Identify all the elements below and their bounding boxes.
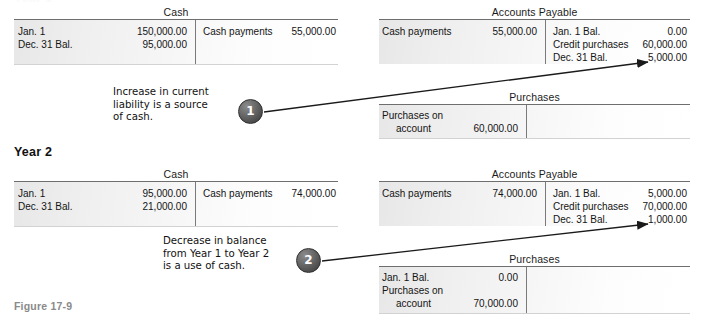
annotation-line: from Year 1 to Year 2 (163, 248, 295, 261)
annotation-1-badge: 1 (238, 99, 263, 124)
row-label: account (382, 122, 431, 135)
row-amount: 1,000.00 (648, 213, 687, 226)
annotation-line: is a use of cash. (163, 260, 295, 273)
table-row: Jan. 1 Bal. 0.00 (382, 271, 518, 284)
credit-side: Jan. 1 Bal. 5,000.00 Credit purchases 70… (546, 182, 690, 226)
account-bottom-rule (379, 138, 690, 139)
table-row: Purchases on (382, 284, 518, 297)
table-row: Cash payments 55,000.00 (203, 25, 336, 38)
debit-side: Jan. 1 Bal. 0.00 Purchases on account 70… (379, 267, 527, 313)
credit-side: Cash payments 74,000.00 (196, 182, 338, 226)
row-amount: 21,000.00 (143, 200, 188, 213)
row-label: Credit purchases (553, 200, 629, 213)
table-row: Jan. 1 Bal. 0.00 (553, 25, 687, 38)
row-amount: 5,000.00 (648, 187, 687, 200)
annotation-2-text: Decrease in balance from Year 1 to Year … (163, 235, 295, 273)
account-bottom-rule (14, 64, 338, 65)
credit-side (527, 105, 690, 138)
row-label: Purchases on (382, 284, 443, 297)
row-label: Cash payments (382, 187, 451, 200)
account-title: Cash (14, 6, 338, 19)
annotation-line: Increase in current (113, 86, 225, 99)
row-label: Dec. 31 Bal. (18, 38, 72, 51)
debit-side: Purchases on account 60,000.00 (379, 105, 527, 138)
row-amount: 0.00 (668, 25, 687, 38)
annotation-line: liability is a source (113, 99, 225, 112)
credit-side: Jan. 1 Bal. 0.00 Credit purchases 60,000… (546, 20, 690, 64)
row-label: Jan. 1 Bal. (382, 271, 429, 284)
t-account-year2-purchases: Purchases Jan. 1 Bal. 0.00 Purchases on … (379, 253, 690, 314)
table-row: Jan. 1 95,000.00 (18, 187, 187, 200)
row-label: Cash payments (203, 25, 272, 38)
row-amount: 55,000.00 (292, 25, 337, 38)
account-bottom-rule (14, 226, 338, 227)
row-label: Jan. 1 (18, 187, 45, 200)
row-amount: 70,000.00 (474, 297, 519, 310)
t-account-year1-accounts-payable: Accounts Payable Cash payments 55,000.00… (379, 6, 690, 64)
row-amount: 74,000.00 (493, 187, 538, 200)
row-label: Dec. 31 Bal. (553, 213, 607, 226)
table-row: Jan. 1 150,000.00 (18, 25, 187, 38)
row-label: Dec. 31 Bal. (553, 51, 607, 64)
annotation-2-badge: 2 (296, 248, 321, 273)
debit-side: Jan. 1 95,000.00 Dec. 31 Bal. 21,000.00 (14, 182, 196, 226)
table-row: Credit purchases 70,000.00 (553, 200, 687, 213)
row-amount: 60,000.00 (474, 122, 519, 135)
annotation-1-text: Increase in current liability is a sourc… (113, 86, 225, 124)
row-label: Dec. 31 Bal. (18, 200, 72, 213)
row-amount: 55,000.00 (493, 25, 538, 38)
row-label: account (382, 297, 431, 310)
account-bottom-rule (379, 313, 690, 314)
row-amount: 150,000.00 (137, 25, 187, 38)
annotation-line: of cash. (113, 111, 225, 124)
credit-side: Cash payments 55,000.00 (196, 20, 338, 64)
debit-side: Cash payments 55,000.00 (379, 20, 546, 64)
account-title: Purchases (379, 91, 690, 104)
table-row: Cash payments 74,000.00 (203, 187, 336, 200)
row-amount: 5,000.00 (648, 51, 687, 64)
row-label: Jan. 1 Bal. (553, 25, 600, 38)
credit-side (527, 267, 690, 313)
row-amount: 95,000.00 (143, 38, 188, 51)
table-row: Dec. 31 Bal. 1,000.00 (553, 213, 687, 226)
account-title: Cash (14, 168, 338, 181)
account-title: Accounts Payable (379, 6, 690, 19)
row-amount: 95,000.00 (143, 187, 188, 200)
annotation-line: Decrease in balance (163, 235, 295, 248)
table-row: Jan. 1 Bal. 5,000.00 (553, 187, 687, 200)
debit-side: Jan. 1 150,000.00 Dec. 31 Bal. 95,000.00 (14, 20, 196, 64)
figure-caption: Figure 17-9 (14, 300, 72, 312)
row-label: Jan. 1 Bal. (553, 187, 600, 200)
account-title: Purchases (379, 253, 690, 266)
year2-heading: Year 2 (14, 145, 52, 159)
account-title: Accounts Payable (379, 168, 690, 181)
table-row: Cash payments 55,000.00 (382, 25, 537, 38)
table-row: account 70,000.00 (382, 297, 518, 310)
row-label: Credit purchases (553, 38, 629, 51)
debit-side: Cash payments 74,000.00 (379, 182, 546, 226)
row-label: Jan. 1 (18, 25, 45, 38)
row-amount: 74,000.00 (292, 187, 337, 200)
table-row: Credit purchases 60,000.00 (553, 38, 687, 51)
row-amount: 60,000.00 (643, 38, 688, 51)
row-label: Cash payments (203, 187, 272, 200)
table-row: Dec. 31 Bal. 21,000.00 (18, 200, 187, 213)
t-account-year1-purchases: Purchases Purchases on account 60,000.00 (379, 91, 690, 139)
table-row: account 60,000.00 (382, 122, 518, 135)
row-label: Cash payments (382, 25, 451, 38)
t-account-year2-accounts-payable: Accounts Payable Cash payments 74,000.00… (379, 168, 690, 226)
table-row: Dec. 31 Bal. 95,000.00 (18, 38, 187, 51)
t-account-year2-cash: Cash Jan. 1 95,000.00 Dec. 31 Bal. 21,00… (14, 168, 338, 227)
row-amount: 70,000.00 (643, 200, 688, 213)
clipped-year1-heading: Year 1 (14, 0, 52, 5)
table-row: Dec. 31 Bal. 5,000.00 (553, 51, 687, 64)
table-row: Purchases on (382, 109, 518, 122)
row-amount: 0.00 (499, 271, 518, 284)
row-label: Purchases on (382, 109, 443, 122)
table-row: Cash payments 74,000.00 (382, 187, 537, 200)
t-account-year1-cash: Cash Jan. 1 150,000.00 Dec. 31 Bal. 95,0… (14, 6, 338, 65)
